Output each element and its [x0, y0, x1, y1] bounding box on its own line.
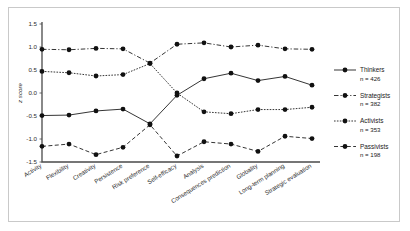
series-line-thinkers — [42, 73, 312, 124]
line-chart: 1.51.00.50.0-0.5-1.0-1.5z scoreActivityF… — [0, 0, 410, 231]
y-tick-label: 0.0 — [28, 89, 37, 96]
data-point-activists-2 — [94, 74, 99, 79]
data-point-thinkers-6 — [202, 76, 207, 81]
data-point-activists-5 — [175, 91, 180, 96]
legend-marker-activists — [343, 119, 348, 124]
legend-marker-thinkers — [343, 68, 348, 73]
data-point-thinkers-1 — [67, 113, 72, 118]
data-point-activists-9 — [283, 107, 288, 112]
data-point-passivists-10 — [310, 136, 315, 141]
data-point-passivists-5 — [175, 154, 180, 159]
x-category-label: Analysis — [182, 162, 205, 180]
data-point-strategists-5 — [175, 42, 180, 47]
data-point-activists-6 — [202, 109, 207, 114]
data-point-thinkers-9 — [283, 74, 288, 79]
data-point-passivists-2 — [94, 152, 99, 157]
data-point-activists-8 — [256, 107, 261, 112]
data-point-activists-0 — [40, 69, 45, 74]
data-point-thinkers-3 — [121, 107, 126, 112]
y-tick-label: -1.0 — [26, 135, 37, 142]
data-point-activists-3 — [121, 72, 126, 77]
legend-n-passivists: n = 198 — [360, 151, 381, 158]
data-point-strategists-8 — [256, 43, 261, 48]
legend-n-strategists: n = 382 — [360, 100, 381, 107]
legend-label-thinkers: Thinkers — [360, 66, 385, 73]
data-point-strategists-1 — [67, 47, 72, 52]
y-tick-label: 0.5 — [28, 66, 37, 73]
data-point-passivists-3 — [121, 145, 126, 150]
y-tick-label: 1.0 — [28, 43, 37, 50]
legend-label-activists: Activists — [360, 117, 383, 124]
x-category-label: Flexibility — [45, 161, 71, 181]
data-point-activists-7 — [229, 111, 234, 116]
data-point-passivists-6 — [202, 139, 207, 144]
data-point-thinkers-2 — [94, 109, 99, 114]
chart-container: 1.51.00.50.0-0.5-1.0-1.5z scoreActivityF… — [0, 0, 410, 231]
data-point-passivists-9 — [283, 134, 288, 139]
data-point-thinkers-7 — [229, 71, 234, 76]
data-point-strategists-10 — [310, 47, 315, 52]
data-point-passivists-8 — [256, 149, 261, 154]
data-point-strategists-7 — [229, 45, 234, 50]
data-point-activists-1 — [67, 70, 72, 75]
legend-label-strategists: Strategists — [360, 92, 390, 100]
y-tick-label: 1.5 — [28, 20, 37, 27]
data-point-strategists-2 — [94, 46, 99, 51]
data-point-thinkers-8 — [256, 78, 261, 83]
data-point-thinkers-10 — [310, 83, 315, 88]
x-category-label: Strategic evaluation — [263, 162, 312, 196]
data-point-passivists-1 — [67, 142, 72, 147]
series-line-activists — [42, 64, 312, 114]
chart-axes — [42, 22, 320, 162]
data-point-strategists-6 — [202, 40, 207, 45]
data-point-passivists-4 — [148, 122, 153, 127]
data-point-activists-10 — [310, 105, 315, 110]
y-axis-title: z score — [16, 82, 23, 104]
legend-label-passivists: Passivists — [360, 143, 388, 150]
series-line-passivists — [42, 125, 312, 156]
x-category-label: Long-term planning — [237, 162, 285, 196]
data-point-activists-4 — [148, 61, 153, 66]
data-point-strategists-0 — [40, 47, 45, 52]
x-category-label: Self-efficacy — [146, 161, 179, 185]
data-point-strategists-3 — [121, 46, 126, 51]
data-point-thinkers-0 — [40, 113, 45, 118]
legend-n-thinkers: n = 426 — [360, 75, 381, 82]
legend-n-activists: n = 353 — [360, 126, 381, 133]
legend-marker-passivists — [343, 144, 348, 149]
y-tick-label: -0.5 — [26, 112, 37, 119]
data-point-passivists-7 — [229, 142, 234, 147]
data-point-strategists-9 — [283, 46, 288, 51]
legend-marker-strategists — [343, 93, 348, 98]
data-point-passivists-0 — [40, 144, 45, 149]
